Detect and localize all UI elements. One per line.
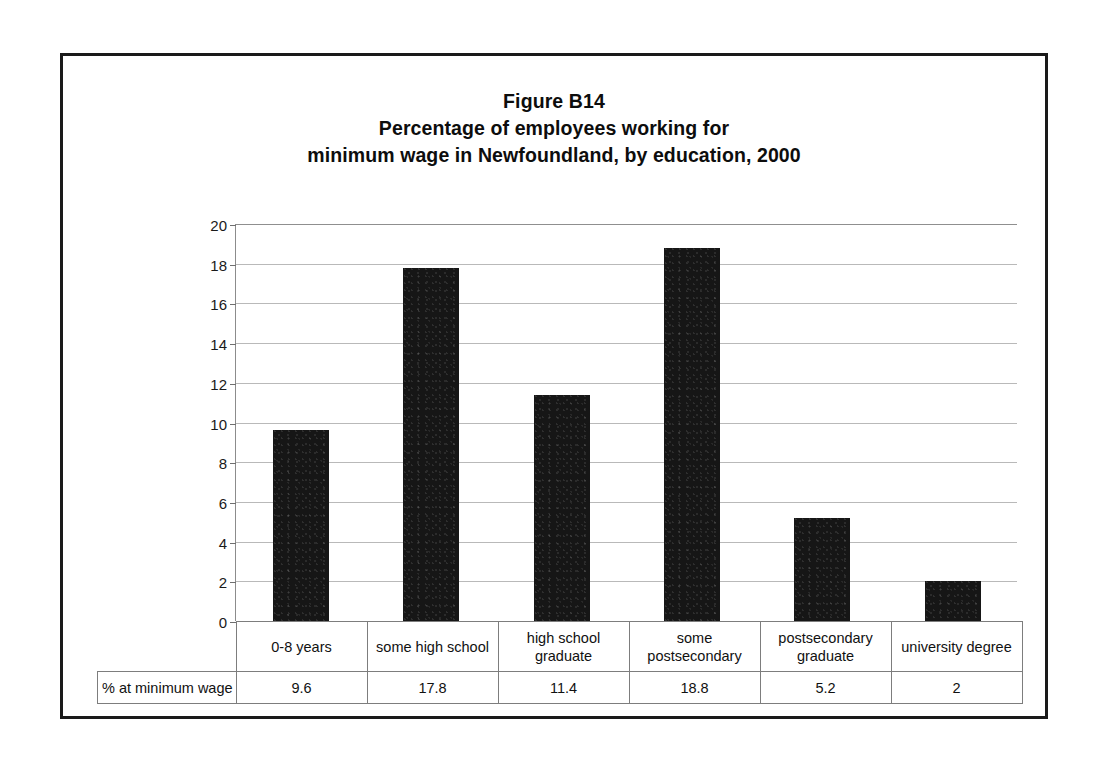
y-tick-label-4: 4	[219, 534, 227, 551]
plot-area: 20181614121086420	[235, 224, 1017, 621]
category-header-cell: some high school	[367, 622, 498, 672]
y-tick-label-10: 10	[210, 415, 227, 432]
bar-some-postsecondary	[664, 248, 720, 621]
bar-university-degree	[925, 581, 981, 621]
value-cell: 5.2	[760, 672, 891, 704]
category-label-line1: university degree	[892, 638, 1022, 656]
y-tick-label-12: 12	[210, 375, 227, 392]
category-label-line1: high school	[499, 629, 629, 647]
category-header-cell: somepostsecondary	[629, 622, 760, 672]
chart-area: 20181614121086420 0-8 yearssome high sch…	[63, 56, 1051, 722]
category-label-line1: postsecondary	[761, 629, 891, 647]
category-label-line1: 0-8 years	[237, 638, 367, 656]
scanned-page: Figure B14 Percentage of employees worki…	[0, 0, 1111, 760]
bar-high-school-graduate	[534, 395, 590, 621]
bar-slot	[627, 224, 757, 621]
category-header-cell: postsecondarygraduate	[760, 622, 891, 672]
table-row-categories: 0-8 yearssome high schoolhigh schoolgrad…	[98, 622, 1023, 672]
category-header-cell: high schoolgraduate	[498, 622, 629, 672]
category-label-line2: graduate	[499, 647, 629, 665]
y-tick-label-20: 20	[210, 217, 227, 234]
value-cell: 17.8	[367, 672, 498, 704]
y-tick-label-2: 2	[219, 574, 227, 591]
y-tick-label-14: 14	[210, 336, 227, 353]
value-cell: 11.4	[498, 672, 629, 704]
value-cell: 18.8	[629, 672, 760, 704]
bar-0-8-years	[273, 430, 329, 621]
bar-slot	[757, 224, 887, 621]
category-header-cell: 0-8 years	[236, 622, 367, 672]
series-label-cell: % at minimum wage	[98, 672, 237, 704]
y-tick-label-8: 8	[219, 455, 227, 472]
category-label-line2: postsecondary	[630, 647, 760, 665]
y-tick-label-6: 6	[219, 494, 227, 511]
category-label-line1: some	[630, 629, 760, 647]
bar-series	[236, 224, 1017, 621]
value-cell: 2	[891, 672, 1022, 704]
bar-some-high-school	[403, 268, 459, 621]
category-label-line2: graduate	[761, 647, 891, 665]
category-label-line1: some high school	[368, 638, 498, 656]
bar-postsecondary-graduate	[794, 518, 850, 621]
data-table: 0-8 yearssome high schoolhigh schoolgrad…	[97, 621, 1023, 704]
y-tick-label-18: 18	[210, 256, 227, 273]
category-header-cell: university degree	[891, 622, 1022, 672]
bar-slot	[497, 224, 627, 621]
y-tick-label-16: 16	[210, 296, 227, 313]
table-row-values: % at minimum wage 9.617.811.418.85.22	[98, 672, 1023, 704]
bar-slot	[888, 224, 1018, 621]
bar-slot	[366, 224, 496, 621]
bar-slot	[236, 224, 366, 621]
table-corner-cell	[98, 622, 237, 672]
value-cell: 9.6	[236, 672, 367, 704]
figure-frame: Figure B14 Percentage of employees worki…	[60, 53, 1048, 719]
